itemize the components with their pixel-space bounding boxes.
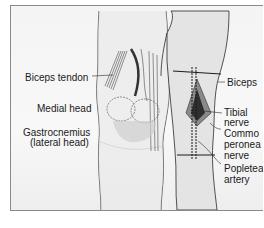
label-common-peroneal-2: peronea xyxy=(224,139,261,150)
label-common-peroneal: Commo xyxy=(224,128,259,139)
label-lateral-head: (lateral head) xyxy=(30,137,89,148)
label-biceps-tendon: Biceps tendon xyxy=(25,72,88,83)
label-common-peroneal-3: nerve xyxy=(224,150,249,161)
figure-caption xyxy=(30,214,260,222)
label-tibial-nerve-2: nerve xyxy=(224,117,249,128)
label-popliteal-artery-2: artery xyxy=(224,174,250,185)
label-biceps: Biceps xyxy=(227,77,257,88)
label-popliteal-artery: Popleteal xyxy=(224,163,263,174)
figure-frame: Biceps tendon Medial head Gastrocnemius … xyxy=(10,5,263,211)
label-medial-head: Medial head xyxy=(37,103,91,114)
